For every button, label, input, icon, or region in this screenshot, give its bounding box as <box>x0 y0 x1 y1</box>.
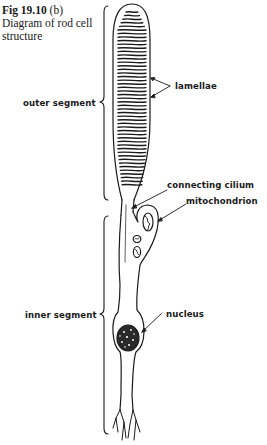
nucleus-body <box>117 325 139 351</box>
inner-segment-outline <box>113 215 121 410</box>
label-inner-segment: inner segment <box>25 310 97 320</box>
outer-segment-brace <box>100 6 108 200</box>
label-connecting-cilium: connecting cilium <box>167 180 254 190</box>
leader-lines <box>132 78 186 333</box>
label-nucleus: nucleus <box>166 309 204 319</box>
synaptic-terminal <box>113 410 140 440</box>
inner-segment-brace <box>100 216 108 434</box>
lamellae-lines <box>118 12 146 185</box>
cilium-fibre <box>125 205 126 262</box>
rod-cell-diagram: /* placeholder removed */ <box>0 0 267 445</box>
label-lamellae: lamellae <box>175 81 217 91</box>
label-mitochondrion: mitochondrion <box>186 196 258 206</box>
label-outer-segment: outer segment <box>23 98 96 108</box>
